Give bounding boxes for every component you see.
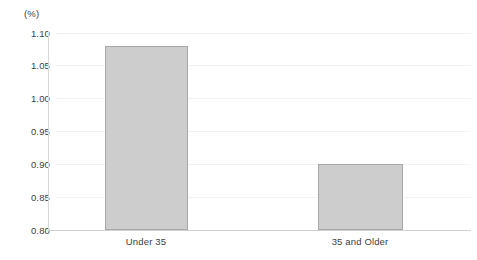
bar-chart: (%) 1.10 1.05 1.00 0.95 0.90 0.85 0.80 U…	[0, 0, 477, 260]
y-axis-line	[48, 31, 49, 231]
y-axis-tick-labels: 1.10 1.05 1.00 0.95 0.90 0.85 0.80	[6, 0, 50, 260]
gridline	[56, 33, 471, 34]
y-axis-tick-label: 1.10	[6, 28, 50, 39]
x-axis-category-label-1: 35 and Older	[332, 236, 389, 248]
plot-area	[56, 33, 471, 230]
y-axis-tick-label: 0.95	[6, 126, 50, 137]
x-axis-category-label-0: Under 35	[126, 236, 166, 248]
bar-under-35	[105, 46, 188, 230]
y-axis-tick-label: 1.00	[6, 93, 50, 104]
y-axis-tick-label: 0.80	[6, 225, 50, 236]
y-axis-tick-label: 1.05	[6, 60, 50, 71]
y-axis-tick-label: 0.85	[6, 192, 50, 203]
x-axis-line	[48, 230, 471, 231]
bar-35-and-older	[318, 164, 403, 230]
y-axis-tick-label: 0.90	[6, 159, 50, 170]
